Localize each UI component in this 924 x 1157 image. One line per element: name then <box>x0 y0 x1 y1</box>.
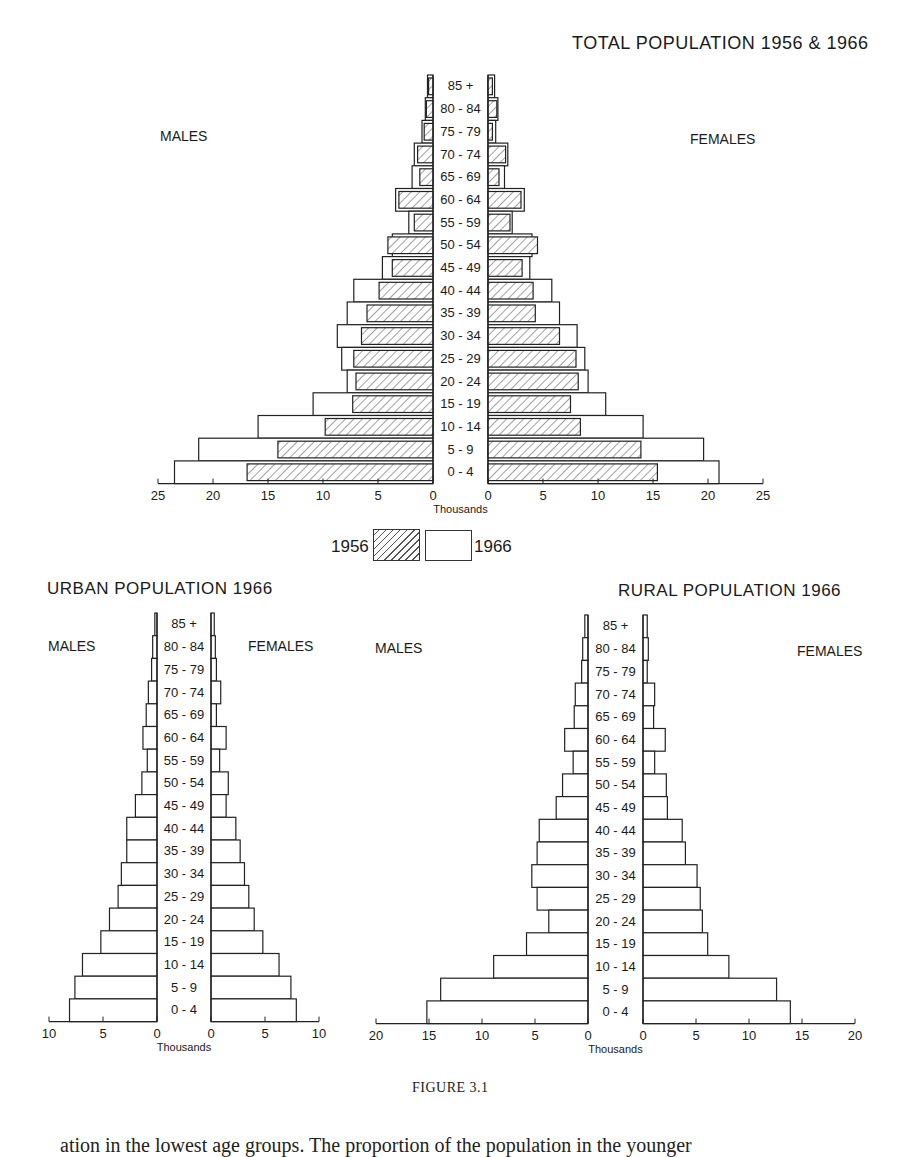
bar-females-1956-75-79 <box>488 123 492 140</box>
figure-caption: FIGURE 3.1 <box>412 1080 489 1096</box>
bar-females-1966-30-34 <box>211 863 244 886</box>
bar-males-1956-25-29 <box>354 350 433 367</box>
bar-males-1966-25-29 <box>537 887 588 910</box>
x-tick-label: 10 <box>591 488 605 503</box>
age-group-label: 75 - 79 <box>595 664 635 679</box>
age-group-label: 0 - 4 <box>602 1004 628 1019</box>
x-tick-label: 25 <box>151 488 165 503</box>
age-group-label: 40 - 44 <box>440 283 480 298</box>
bar-males-1966-30-34 <box>532 865 588 888</box>
bar-females-1966-25-29 <box>211 885 249 908</box>
age-group-label: 15 - 19 <box>595 936 635 951</box>
age-group-label: 40 - 44 <box>164 821 204 836</box>
age-group-label: 45 - 49 <box>595 800 635 815</box>
age-group-label: 10 - 14 <box>440 419 480 434</box>
age-group-label: 0 - 4 <box>171 1002 197 1017</box>
age-group-label: 10 - 14 <box>164 957 204 972</box>
bar-males-1966-65-69 <box>574 706 588 729</box>
bar-males-1956-50-54 <box>388 237 433 254</box>
bar-females-1956-45-49 <box>488 260 522 277</box>
bar-males-1966-20-24 <box>549 910 588 933</box>
age-group-label: 15 - 19 <box>164 934 204 949</box>
bar-females-1966-80-84 <box>643 638 648 661</box>
bar-males-1966-70-74 <box>148 681 157 704</box>
bar-females-1966-40-44 <box>211 817 236 840</box>
x-tick-label: 5 <box>692 1028 699 1043</box>
age-group-label: 80 - 84 <box>440 101 480 116</box>
bar-males-1966-60-64 <box>143 727 157 750</box>
x-axis-label: Thousands <box>157 1041 212 1053</box>
age-group-label: 65 - 69 <box>164 707 204 722</box>
bar-females-1956-0-4 <box>488 464 657 481</box>
x-tick-label: 15 <box>261 488 275 503</box>
bar-males-1956-30-34 <box>362 328 434 345</box>
x-tick-label: 10 <box>742 1028 756 1043</box>
age-group-label: 0 - 4 <box>447 464 473 479</box>
bar-females-1956-30-34 <box>488 328 560 345</box>
x-tick-label: 10 <box>312 1026 326 1041</box>
age-group-label: 45 - 49 <box>440 260 480 275</box>
x-tick-label: 5 <box>531 1028 538 1043</box>
age-group-label: 55 - 59 <box>440 215 480 230</box>
x-tick-label: 25 <box>756 488 770 503</box>
bar-females-1966-15-19 <box>211 931 263 954</box>
bar-females-1966-60-64 <box>211 727 226 750</box>
age-group-label: 70 - 74 <box>164 685 204 700</box>
age-group-label: 50 - 54 <box>440 237 480 252</box>
age-group-label: 85 + <box>448 78 474 93</box>
bar-males-1956-15-19 <box>353 396 433 413</box>
bar-females-1966-40-44 <box>643 819 682 842</box>
bar-males-1966-30-34 <box>121 863 157 886</box>
bar-females-1966-45-49 <box>643 797 667 820</box>
bar-males-1956-35-39 <box>367 305 433 322</box>
bar-males-1966-5-9 <box>75 976 157 999</box>
bar-females-1956-5-9 <box>488 441 641 458</box>
age-group-label: 55 - 59 <box>164 753 204 768</box>
x-tick-label: 5 <box>374 488 381 503</box>
age-group-label: 40 - 44 <box>595 823 635 838</box>
bar-females-1956-50-54 <box>488 237 538 254</box>
bar-females-1966-35-39 <box>643 842 685 865</box>
age-group-label: 85 + <box>603 618 629 633</box>
age-group-label: 30 - 34 <box>164 866 204 881</box>
bar-males-1966-0-4 <box>427 1001 588 1024</box>
x-tick-label: 15 <box>795 1028 809 1043</box>
cut-off-body-text: ation in the lowest age groups. The prop… <box>60 1134 692 1157</box>
age-group-label: 70 - 74 <box>595 687 635 702</box>
bar-males-1966-50-54 <box>142 772 157 795</box>
age-group-label: 30 - 34 <box>595 868 635 883</box>
age-group-label: 5 - 9 <box>447 442 473 457</box>
x-tick-label: 15 <box>646 488 660 503</box>
x-tick-label: 0 <box>484 488 491 503</box>
age-group-label: 55 - 59 <box>595 755 635 770</box>
bar-females-1956-10-14 <box>488 419 580 436</box>
age-group-label: 45 - 49 <box>164 798 204 813</box>
bar-males-1956-55-59 <box>414 214 433 231</box>
bar-females-1956-15-19 <box>488 396 571 413</box>
bar-males-1966-10-14 <box>494 956 588 979</box>
age-group-label: 5 - 9 <box>171 980 197 995</box>
bar-males-1956-85 <box>429 78 433 95</box>
x-tick-label: 10 <box>316 488 330 503</box>
bar-females-1966-5-9 <box>211 976 291 999</box>
age-group-label: 20 - 24 <box>440 374 480 389</box>
bar-females-1956-25-29 <box>488 350 576 367</box>
bar-males-1956-45-49 <box>392 260 433 277</box>
age-group-label: 35 - 39 <box>164 843 204 858</box>
age-group-label: 70 - 74 <box>440 147 480 162</box>
bar-males-1966-20-24 <box>109 908 157 931</box>
x-tick-label: 0 <box>639 1028 646 1043</box>
bar-males-1966-50-54 <box>563 774 588 797</box>
x-tick-label: 20 <box>369 1028 383 1043</box>
age-group-label: 35 - 39 <box>595 845 635 860</box>
x-tick-label: 10 <box>42 1026 56 1041</box>
urban-population-pyramid: 85 +80 - 8475 - 7970 - 7465 - 6960 - 645… <box>42 613 326 1053</box>
bar-males-1966-15-19 <box>527 933 588 956</box>
age-group-label: 20 - 24 <box>595 914 635 929</box>
x-tick-label: 20 <box>848 1028 862 1043</box>
age-group-label: 65 - 69 <box>595 709 635 724</box>
bar-females-1966-55-59 <box>643 751 655 774</box>
bar-males-1966-0-4 <box>70 999 157 1022</box>
bar-males-1956-70-74 <box>418 146 433 163</box>
bar-males-1956-75-79 <box>424 123 433 140</box>
